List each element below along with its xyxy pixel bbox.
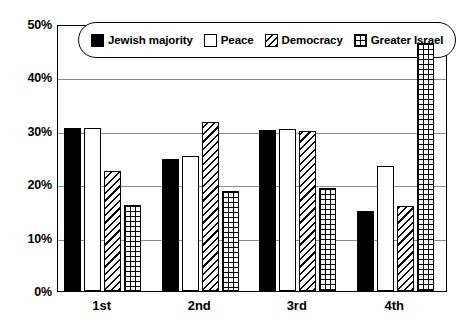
bar [64,128,81,291]
bar [357,211,374,291]
legend-entry: Peace [204,34,254,47]
bar [319,188,336,291]
legend-label: Peace [221,34,254,46]
y-axis-tick-label: 30% [28,126,52,139]
bar [377,166,394,291]
bar-group [156,26,254,291]
y-axis-tick-label: 50% [28,19,52,32]
bar [259,130,276,291]
bars-layer [58,26,446,291]
legend-entry: Jewish majority [91,34,193,47]
legend-swatch-icon [91,34,104,47]
bar [279,129,296,291]
bar [124,205,141,292]
bar-group [58,26,156,291]
y-axis-tick-label: 40% [28,72,52,85]
y-axis-tick-label: 10% [28,232,52,245]
legend-label: Democracy [282,34,343,46]
x-axis-tick-label: 2nd [188,298,211,313]
bar-chart: 0%10%20%30%40%50% 1st2nd3rd4th Jewish ma… [0,0,467,328]
legend-swatch-icon [354,34,367,47]
bar [397,206,414,291]
legend-entry: Democracy [265,34,343,47]
bar [299,131,316,291]
legend-swatch-icon [265,34,278,47]
x-axis-tick-label: 4th [385,298,405,313]
bar [104,171,121,291]
y-axis: 0%10%20%30%40%50% [0,0,56,328]
y-axis-tick-label: 20% [28,179,52,192]
x-axis: 1st2nd3rd4th [57,294,447,322]
bar [182,156,199,291]
bar-group [351,26,449,291]
x-axis-tick-label: 3rd [287,298,307,313]
x-axis-tick-label: 1st [92,298,111,313]
legend-label: Jewish majority [108,34,193,46]
bar [202,122,219,291]
chart-legend: Jewish majorityPeaceDemocracyGreater Isr… [78,22,456,58]
y-axis-tick-label: 0% [34,286,52,299]
legend-swatch-icon [204,34,217,47]
bar [222,191,239,291]
bar-group [253,26,351,291]
bar [84,128,101,291]
plot-area [57,25,447,292]
bar [162,159,179,291]
bar [417,43,434,291]
